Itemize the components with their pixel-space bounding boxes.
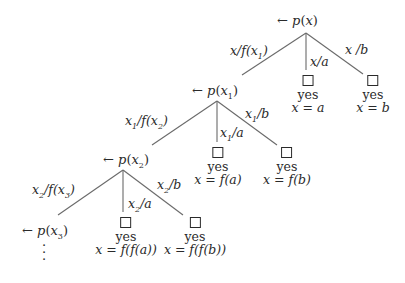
goal-node-2: ← p(x2)	[103, 153, 149, 170]
edge-label-2-recursive: x2/f(x3)	[32, 184, 75, 200]
leaf-x-f-a: yes x = f(a)	[194, 147, 241, 186]
left-arrow-icon: ←	[277, 13, 288, 28]
sld-resolution-tree: ← p(x) x/f(x1) x/a x /b yes x = a yes x …	[0, 0, 405, 283]
edge-label-2-a: x2/a	[128, 198, 152, 214]
goal-node-0: ← p(x)	[277, 14, 318, 27]
leaf-x-f-b: yes x = f(b)	[263, 147, 311, 186]
edge-label-1-b: x1/b	[245, 108, 269, 124]
edge-label-1-recursive: x1/f(x2)	[125, 115, 168, 131]
empty-clause-box-icon	[213, 147, 224, 158]
leaf-x-f-f-a: yes x = f(f(a))	[95, 217, 157, 256]
leaf-x-b: yes x = b	[356, 75, 389, 114]
left-arrow-icon: ←	[103, 152, 114, 167]
edge-label-0-b: x /b	[345, 44, 368, 57]
edge-label-0-recursive: x/f(x1)	[230, 45, 268, 61]
leaf-x-a: yes x = a	[292, 75, 325, 114]
empty-clause-box-icon	[367, 75, 378, 86]
empty-clause-box-icon	[303, 75, 314, 86]
edge-label-0-a: x/a	[310, 56, 329, 69]
edge-label-1-a: x1/a	[220, 127, 244, 143]
left-arrow-icon: ←	[192, 83, 203, 98]
leaf-x-f-f-b: yes x = f(f(b))	[164, 217, 226, 256]
empty-clause-box-icon	[189, 217, 200, 228]
goal-node-1: ← p(x1)	[192, 84, 238, 101]
empty-clause-box-icon	[281, 147, 292, 158]
empty-clause-box-icon	[121, 217, 132, 228]
left-arrow-icon: ←	[22, 223, 33, 238]
vertical-ellipsis-icon: ···	[41, 242, 47, 263]
edge-label-2-b: x2/b	[157, 179, 181, 195]
